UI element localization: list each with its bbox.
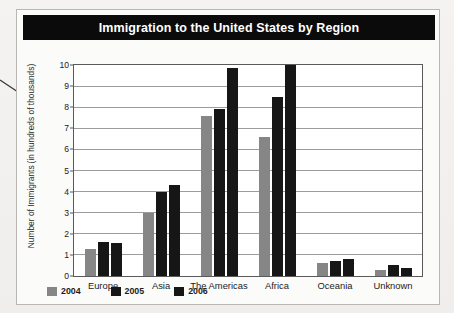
x-axis-label-oceania: Oceania <box>318 280 353 291</box>
bar-europe-2004[interactable] <box>85 249 96 276</box>
bar-asia-2006[interactable] <box>169 185 180 276</box>
y-axis-tick-label: 6 <box>64 144 69 154</box>
legend-item-2006[interactable]: 2006 <box>174 286 208 296</box>
bar-unknown-2006[interactable] <box>401 268 412 276</box>
legend-swatch-2006 <box>174 287 184 296</box>
bar-asia-2005[interactable] <box>156 192 167 276</box>
bar-africa-2004[interactable] <box>259 137 270 276</box>
y-axis-tick-label: 3 <box>64 208 69 218</box>
bar-group: Unknown <box>364 65 422 276</box>
legend-swatch-2004 <box>47 287 57 296</box>
legend-item-2004[interactable]: 2004 <box>47 286 81 296</box>
bar-group: Europe <box>74 65 132 276</box>
y-axis-tick-label: 7 <box>64 123 69 133</box>
bar-the-americas-2004[interactable] <box>201 116 212 276</box>
y-axis-title-line2: (in hundreds of thousands) <box>26 64 36 164</box>
chart-title-banner: Immigration to the United States by Regi… <box>23 15 435 40</box>
y-axis-tick-label: 0 <box>64 271 69 281</box>
bar-group: Africa <box>248 65 306 276</box>
legend-swatch-2005 <box>111 287 121 296</box>
y-axis-tick-label: 5 <box>64 166 69 176</box>
legend-label-2004: 2004 <box>61 286 81 296</box>
x-axis-label-unknown: Unknown <box>373 280 412 291</box>
bar-unknown-2004[interactable] <box>375 270 386 276</box>
bar-oceania-2006[interactable] <box>343 259 354 276</box>
bar-oceania-2005[interactable] <box>330 261 341 276</box>
chart-card: Immigration to the United States by Regi… <box>16 9 440 305</box>
chart-region: Number of Immigrants (in hundreds of tho… <box>23 43 435 299</box>
page-title: Immigration to the United States by Regi… <box>99 21 359 35</box>
bar-the-americas-2005[interactable] <box>214 109 225 276</box>
legend-item-2005[interactable]: 2005 <box>111 286 145 296</box>
y-axis-tick-label: 9 <box>64 81 69 91</box>
y-axis-title-line1: Number of Immigrants <box>26 165 36 248</box>
bar-africa-2006[interactable] <box>285 65 296 276</box>
bar-europe-2005[interactable] <box>98 242 109 276</box>
bar-europe-2006[interactable] <box>111 243 122 276</box>
bar-asia-2004[interactable] <box>143 213 154 276</box>
bar-unknown-2005[interactable] <box>388 265 399 276</box>
y-axis-tick-label: 10 <box>59 60 69 70</box>
bar-africa-2005[interactable] <box>272 97 283 276</box>
bar-the-americas-2006[interactable] <box>227 68 238 276</box>
y-axis-tick-label: 1 <box>64 250 69 260</box>
y-axis-tick-label: 8 <box>64 102 69 112</box>
y-axis-tick-label: 4 <box>64 187 69 197</box>
legend-label-2005: 2005 <box>125 286 145 296</box>
bar-oceania-2004[interactable] <box>317 263 328 276</box>
bar-group: Oceania <box>306 65 364 276</box>
legend-label-2006: 2006 <box>188 286 208 296</box>
bar-group: Asia <box>132 65 190 276</box>
y-axis-tick-label: 2 <box>64 229 69 239</box>
y-axis-title: Number of Immigrants (in hundreds of tho… <box>17 81 45 231</box>
chart-legend: 200420052006 <box>47 286 208 296</box>
bar-group: The Americas <box>190 65 248 276</box>
x-axis-label-africa: Africa <box>265 280 289 291</box>
plot-area: 012345678910EuropeAsiaThe AmericasAfrica… <box>73 64 423 277</box>
